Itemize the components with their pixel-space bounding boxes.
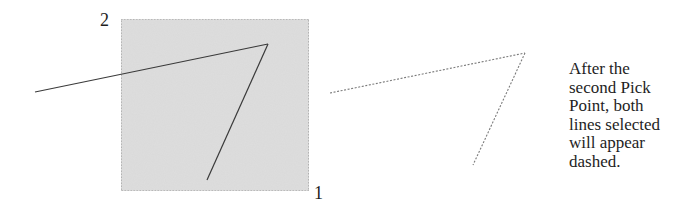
pick-point-1-label: 1 xyxy=(314,184,323,202)
caption-line: second Pick xyxy=(569,79,689,98)
caption-text: After the second Pick Point, both lines … xyxy=(569,60,689,171)
caption-line: lines selected xyxy=(569,116,689,135)
line-dashed-diagonal xyxy=(473,53,525,165)
caption-line: Point, both xyxy=(569,97,689,116)
caption-line: dashed. xyxy=(569,153,689,172)
caption-line: will appear xyxy=(569,134,689,153)
selection-diagram: 2 1 After the second Pick Point, both li… xyxy=(0,0,689,206)
pick-point-2-label: 2 xyxy=(100,11,109,29)
selection-window xyxy=(121,19,309,191)
line-dashed-horizontal xyxy=(330,53,525,93)
caption-line: After the xyxy=(569,60,689,79)
